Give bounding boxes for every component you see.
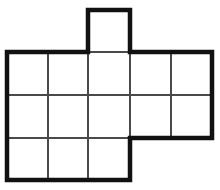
cell-r2c4: [130, 95, 171, 138]
cell-r2c5: [171, 95, 212, 138]
polyomino-net-figure: Cube net polyomino figure: [0, 0, 220, 190]
cell-r1c1: [7, 52, 48, 95]
cell-r3c2: [48, 138, 88, 180]
tab-cell: [88, 10, 130, 52]
cell-r1c4: [130, 52, 171, 95]
cell-r1c5: [171, 52, 212, 95]
cell-r3c1: [7, 138, 48, 180]
figure-stage: Cube net polyomino figure: [0, 0, 220, 190]
cell-r3c3: [88, 138, 130, 180]
cell-r1c3: [88, 52, 130, 95]
cell-r1c2: [48, 52, 88, 95]
cell-r2c1: [7, 95, 48, 138]
cell-r2c2: [48, 95, 88, 138]
cell-r2c3: [88, 95, 130, 138]
